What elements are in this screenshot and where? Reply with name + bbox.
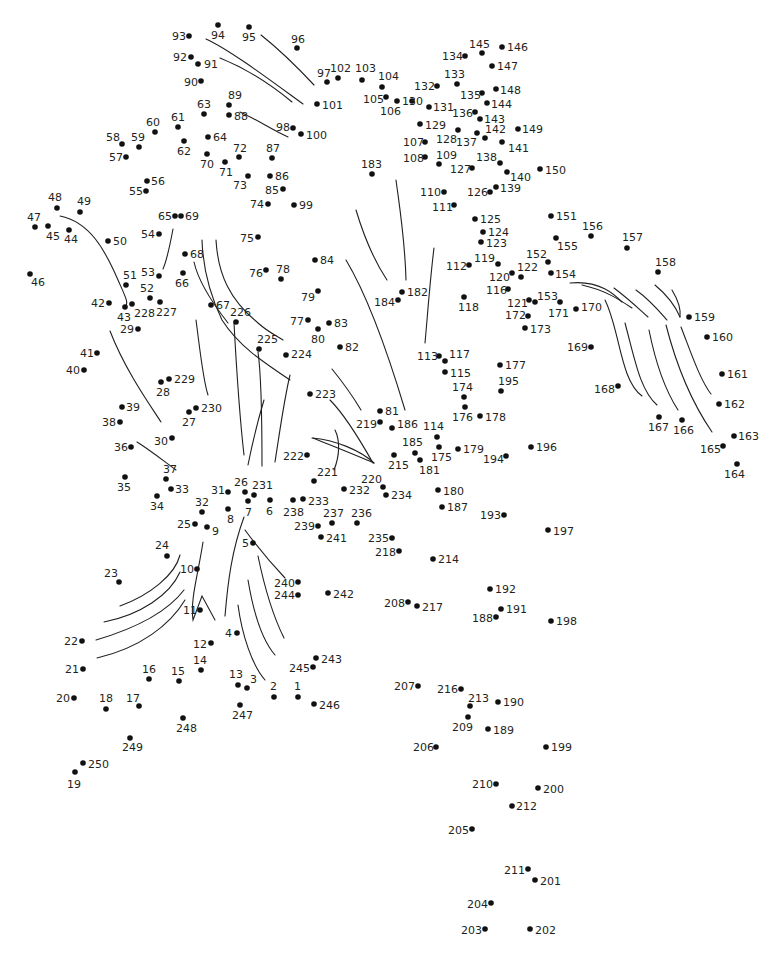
dot-marker[interactable] <box>414 603 420 609</box>
dot-point-170[interactable]: 170 <box>573 301 602 314</box>
dot-point-226[interactable]: 226 <box>230 306 251 325</box>
dot-marker[interactable] <box>255 234 261 240</box>
dot-point-99[interactable]: 99 <box>291 199 313 212</box>
dot-marker[interactable] <box>271 694 277 700</box>
dot-marker[interactable] <box>295 694 301 700</box>
dot-point-202[interactable]: 202 <box>527 924 556 937</box>
dot-marker[interactable] <box>434 434 440 440</box>
dot-point-73[interactable]: 73 <box>233 173 251 192</box>
dot-point-192[interactable]: 192 <box>487 583 516 596</box>
dot-marker[interactable] <box>461 294 467 300</box>
dot-point-17[interactable]: 17 <box>126 692 142 709</box>
dot-point-134[interactable]: 134 <box>442 50 468 63</box>
dot-marker[interactable] <box>193 405 199 411</box>
dot-marker[interactable] <box>324 79 330 85</box>
dot-point-104[interactable]: 104 <box>378 70 399 90</box>
dot-marker[interactable] <box>267 173 273 179</box>
dot-marker[interactable] <box>493 614 499 620</box>
dot-marker[interactable] <box>417 457 423 463</box>
dot-marker[interactable] <box>197 607 203 613</box>
dot-marker[interactable] <box>136 144 142 150</box>
dot-point-210[interactable]: 210 <box>472 778 499 791</box>
dot-marker[interactable] <box>246 24 252 30</box>
dot-point-237[interactable]: 237 <box>323 507 344 526</box>
dot-marker[interactable] <box>377 419 383 425</box>
dot-point-130[interactable]: 130 <box>402 95 423 108</box>
dot-marker[interactable] <box>337 344 343 350</box>
dot-marker[interactable] <box>265 201 271 207</box>
dot-point-81[interactable]: 81 <box>377 405 399 418</box>
dot-marker[interactable] <box>341 486 347 492</box>
dot-marker[interactable] <box>116 579 122 585</box>
dot-marker[interactable] <box>234 630 240 636</box>
dot-point-76[interactable]: 76 <box>249 267 269 280</box>
dot-marker[interactable] <box>236 154 242 160</box>
dot-marker[interactable] <box>182 251 188 257</box>
dot-point-19[interactable]: 19 <box>67 769 81 791</box>
dot-point-198[interactable]: 198 <box>548 615 577 628</box>
dot-marker[interactable] <box>391 452 397 458</box>
dot-marker[interactable] <box>518 274 524 280</box>
dot-point-194[interactable]: 194 <box>483 453 509 466</box>
dot-point-248[interactable]: 248 <box>176 715 197 735</box>
dot-point-96[interactable]: 96 <box>291 33 305 51</box>
dot-point-116[interactable]: 116 <box>486 284 511 297</box>
dot-marker[interactable] <box>152 129 158 135</box>
dot-point-55[interactable]: 55 <box>129 185 149 198</box>
dot-marker[interactable] <box>479 50 485 56</box>
dot-point-180[interactable]: 180 <box>435 485 464 498</box>
dot-point-34[interactable]: 34 <box>150 493 164 513</box>
dot-marker[interactable] <box>158 379 164 385</box>
dot-point-26[interactable]: 26 <box>234 476 248 495</box>
dot-marker[interactable] <box>487 586 493 592</box>
dot-marker[interactable] <box>379 84 385 90</box>
dot-marker[interactable] <box>304 452 310 458</box>
dot-marker[interactable] <box>117 419 123 425</box>
dot-point-199[interactable]: 199 <box>543 741 572 754</box>
dot-point-16[interactable]: 16 <box>142 663 156 682</box>
dot-marker[interactable] <box>199 509 205 515</box>
dot-point-191[interactable]: 191 <box>498 603 527 616</box>
dot-marker[interactable] <box>226 102 232 108</box>
dot-marker[interactable] <box>482 135 488 141</box>
dot-point-2[interactable]: 2 <box>270 680 277 700</box>
dot-marker[interactable] <box>291 202 297 208</box>
dot-point-77[interactable]: 77 <box>290 315 311 328</box>
dot-point-58[interactable]: 58 <box>106 131 125 147</box>
dot-marker[interactable] <box>195 61 201 67</box>
dot-marker[interactable] <box>389 535 395 541</box>
dot-marker[interactable] <box>81 367 87 373</box>
dot-marker[interactable] <box>169 435 175 441</box>
dot-marker[interactable] <box>204 151 210 157</box>
dot-marker[interactable] <box>527 926 533 932</box>
dot-marker[interactable] <box>280 186 286 192</box>
dot-marker[interactable] <box>441 189 447 195</box>
dot-marker[interactable] <box>731 433 737 439</box>
dot-point-166[interactable]: 166 <box>673 417 694 437</box>
dot-point-168[interactable]: 168 <box>594 383 621 396</box>
dot-point-189[interactable]: 189 <box>485 724 514 737</box>
dot-point-157[interactable]: 157 <box>622 231 643 251</box>
dot-point-88[interactable]: 88 <box>226 110 248 123</box>
dot-marker[interactable] <box>71 695 77 701</box>
dot-point-227[interactable]: 227 <box>156 299 177 319</box>
dot-marker[interactable] <box>469 826 475 832</box>
dot-marker[interactable] <box>716 401 722 407</box>
dot-marker[interactable] <box>472 216 478 222</box>
dot-point-124[interactable]: 124 <box>480 226 509 239</box>
dot-marker[interactable] <box>734 461 740 467</box>
dot-point-42[interactable]: 42 <box>91 297 112 310</box>
dot-point-18[interactable]: 18 <box>99 692 113 712</box>
dot-marker[interactable] <box>535 785 541 791</box>
dot-marker[interactable] <box>278 276 284 282</box>
dot-point-174[interactable]: 174 <box>452 381 473 400</box>
dot-point-53[interactable]: 53 <box>141 266 162 279</box>
dot-marker[interactable] <box>548 213 554 219</box>
dot-point-114[interactable]: 114 <box>423 420 444 440</box>
dot-marker[interactable] <box>509 803 515 809</box>
dot-point-141[interactable]: 141 <box>499 139 529 155</box>
dot-marker[interactable] <box>525 866 531 872</box>
dot-point-111[interactable]: 111 <box>432 201 457 214</box>
dot-marker[interactable] <box>181 138 187 144</box>
dot-point-95[interactable]: 95 <box>242 24 256 44</box>
